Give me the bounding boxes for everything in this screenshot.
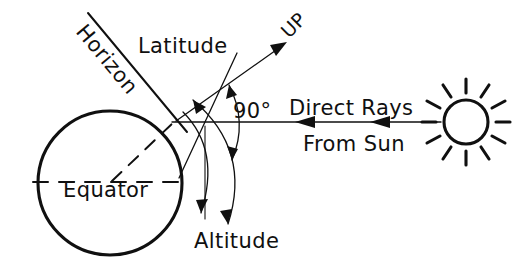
radius-to-observer-line (112, 120, 176, 181)
equator-label: Equator (63, 178, 148, 202)
solar-altitude-diagram: Horizon Latitude UP 90° Direct Rays From… (0, 0, 513, 278)
up-ray-arrowhead (270, 42, 287, 56)
altitude-inner-arc-arrowhead (196, 199, 208, 213)
horizon-label: Horizon (71, 20, 143, 99)
up-label: UP (276, 8, 310, 42)
angle-90-arc-arrowhead-top (226, 85, 237, 99)
altitude-arc-arrowhead-top (193, 100, 206, 114)
altitude-label: Altitude (194, 229, 279, 253)
sun-symbol (422, 79, 510, 165)
direct-rays-label: Direct Rays (289, 96, 413, 120)
latitude-label: Latitude (138, 34, 228, 58)
from-sun-label: From Sun (303, 132, 405, 156)
angle-90-label: 90° (233, 99, 271, 123)
sun-rays (422, 79, 510, 165)
diagram-canvas: Horizon Latitude UP 90° Direct Rays From… (0, 0, 513, 278)
sun-disc (444, 100, 488, 144)
